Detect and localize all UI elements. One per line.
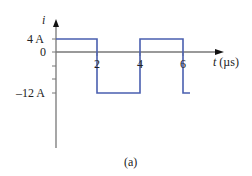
y-tick-label-neg12a: –12 A [16, 87, 45, 99]
y-axis-label: i [42, 14, 45, 26]
y-axis-arrow-icon [53, 19, 59, 27]
figure-caption: (a) [124, 156, 137, 168]
y-tick-label-0: 0 [40, 46, 46, 58]
x-tick-label-6: 6 [180, 58, 186, 70]
x-tick-label-2: 2 [94, 58, 100, 70]
x-axis-label: t (µs) [213, 56, 239, 68]
x-tick-label-4: 4 [137, 58, 143, 70]
x-axis-unit: (µs) [219, 55, 239, 69]
y-tick-label-4a: 4 A [27, 33, 44, 45]
current-waveform [56, 39, 190, 93]
